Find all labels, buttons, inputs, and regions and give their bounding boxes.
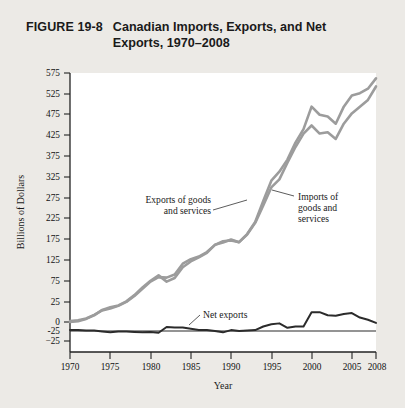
x-tick-label: 1975 — [101, 362, 120, 372]
y-tick-label: 125 — [46, 255, 60, 265]
y-tick-label: 75 — [51, 276, 61, 286]
x-tick-label: 1970 — [61, 362, 80, 372]
y-tick-label: 25 — [51, 297, 61, 307]
y-tick-label: 425 — [46, 130, 60, 140]
imports-label-line-3: services — [298, 213, 329, 224]
x-axis-title: Year — [214, 380, 233, 391]
y-tick-label: 325 — [46, 172, 60, 182]
y-tick-label: 525 — [46, 89, 60, 99]
y-tick-label: 575 — [46, 68, 60, 78]
y-axis-title: Billions of Dollars — [15, 175, 26, 250]
exports-label-line-1: Exports of goods — [145, 194, 211, 205]
exports-label-line-2: and services — [164, 205, 211, 216]
x-tick-label: 1990 — [222, 362, 241, 372]
x-tick-label: 1985 — [182, 362, 201, 372]
y-tick-label: 375 — [46, 151, 60, 161]
x-tick-label: 2005 — [343, 362, 362, 372]
x-tick-label: 1995 — [263, 362, 282, 372]
y-tick-label: -25 — [48, 326, 61, 336]
y-tick-label: 475 — [46, 109, 60, 119]
y-tick-label: 225 — [46, 213, 60, 223]
net-exports-label: Net exports — [203, 309, 248, 320]
x-axis-tick-labels: 1970 1975 1980 1985 1990 1995 2000 2005 … — [61, 362, 387, 372]
chart-plot-area: 575 525 475 425 375 325 275 225 175 125 … — [0, 0, 405, 408]
y-tick-label-negative: −25 — [45, 336, 60, 346]
y-axis-ticks — [64, 73, 70, 341]
x-tick-label: 1980 — [142, 362, 161, 372]
figure-container: FIGURE 19-8 Canadian Imports, Exports, a… — [0, 0, 405, 408]
y-tick-label: 275 — [46, 193, 60, 203]
y-tick-label: 175 — [46, 234, 60, 244]
imports-label-line-2: goods and — [298, 202, 337, 213]
x-axis-ticks — [70, 352, 376, 359]
x-tick-label: 2000 — [303, 362, 322, 372]
imports-label-line-1: Imports of — [298, 191, 339, 202]
x-tick-label: 2008 — [368, 362, 387, 372]
line-chart-svg: 575 525 475 425 375 325 275 225 175 125 … — [0, 0, 405, 408]
y-axis-tick-labels: 575 525 475 425 375 325 275 225 175 125 … — [45, 68, 60, 346]
